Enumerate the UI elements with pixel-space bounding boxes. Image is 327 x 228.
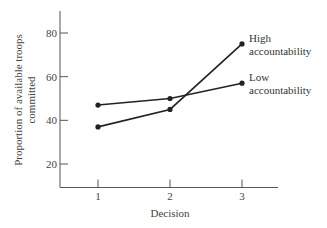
data-point <box>95 102 100 107</box>
series-label: Highaccountability <box>249 32 312 57</box>
data-point <box>167 96 172 101</box>
x-axis-title: Decision <box>150 207 190 219</box>
labels-group: HighaccountabilityLowaccountability <box>249 32 312 96</box>
line-chart: 20406080123DecisionProportion of availab… <box>0 0 327 228</box>
x-tick-label: 3 <box>239 190 245 202</box>
y-tick-label: 20 <box>46 158 58 170</box>
data-point <box>239 41 244 46</box>
y-axis-title: Proportion of available troopscommitted <box>12 34 37 166</box>
series-group <box>95 41 244 129</box>
y-tick-label: 60 <box>46 71 58 83</box>
y-tick-label: 80 <box>46 27 58 39</box>
series-line-low-accountability <box>98 83 242 105</box>
series-line-high-accountability <box>98 44 242 127</box>
series-label: Lowaccountability <box>249 71 312 96</box>
x-tick-label: 2 <box>167 190 173 202</box>
data-point <box>167 107 172 112</box>
data-point <box>95 124 100 129</box>
y-tick-label: 40 <box>46 114 58 126</box>
data-point <box>239 81 244 86</box>
x-tick-label: 1 <box>95 190 101 202</box>
